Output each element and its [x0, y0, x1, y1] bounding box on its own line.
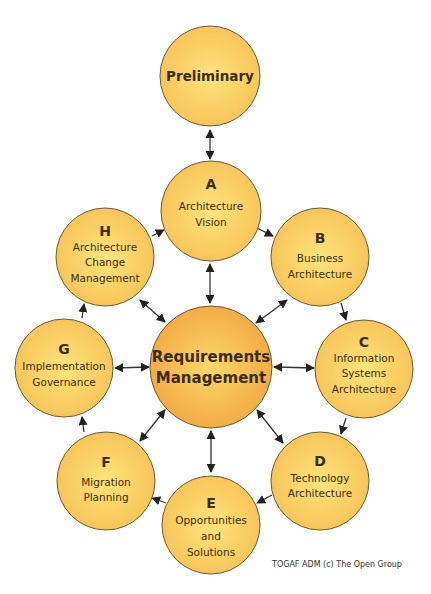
arrow-center-h — [140, 300, 165, 322]
phase-letter: G — [58, 341, 70, 357]
phase-name-line: Information — [334, 352, 395, 364]
arrow-center-b — [256, 300, 287, 323]
phase-name-line: Planning — [83, 491, 128, 503]
phase-letter: B — [315, 230, 326, 246]
preliminary-label: Preliminary — [166, 68, 254, 84]
phase-name-line: Change — [85, 256, 125, 268]
arrow-f-g — [82, 417, 84, 432]
phase-name-line: Architecture — [332, 383, 396, 395]
phase-name-line: Business — [297, 252, 343, 264]
arrow-center-g — [115, 367, 149, 368]
arrow-a-b — [257, 228, 273, 236]
phase-name-line: Governance — [32, 376, 95, 388]
node-preliminary: Preliminary — [160, 26, 260, 126]
phase-name-line: Vision — [195, 216, 226, 228]
phase-name-line: Architecture — [288, 487, 352, 499]
node-phase-e: E Opportunities and Solutions — [162, 476, 260, 574]
phase-letter: D — [314, 453, 326, 469]
arrow-c-d — [341, 418, 346, 434]
arrow-center-f — [140, 410, 165, 441]
phase-letter: C — [359, 334, 369, 350]
node-phase-h: H Architecture Change Management — [56, 208, 154, 306]
node-requirements-management: Requirements Management — [150, 306, 272, 428]
phase-name-line: Solutions — [187, 546, 235, 558]
phase-name-line: Architecture — [73, 241, 137, 253]
phase-name-line: Systems — [342, 367, 387, 379]
phase-letter: A — [206, 176, 217, 192]
node-phase-f: F Migration Planning — [57, 432, 155, 530]
phase-letter: F — [101, 454, 111, 470]
togaf-adm-diagram: Preliminary A Architecture Vision B Busi… — [0, 0, 431, 594]
arrow-h-a — [152, 230, 164, 236]
phase-name-line: Architecture — [288, 268, 352, 280]
phase-name-line: Implementation — [22, 360, 105, 372]
arrow-d-e — [257, 495, 272, 503]
phase-letter: E — [206, 495, 216, 511]
phase-name-line: and — [201, 530, 221, 542]
phase-name-line: Architecture — [179, 200, 243, 212]
arrow-center-c — [274, 367, 314, 368]
node-phase-c: C Information Systems Architecture — [315, 320, 413, 418]
phase-name-line: Opportunities — [175, 514, 247, 526]
phase-name-line: Management — [70, 272, 139, 284]
phase-letter: H — [99, 223, 111, 239]
node-phase-g: G Implementation Governance — [15, 319, 113, 417]
center-label-line1: Requirements — [152, 348, 271, 366]
arrow-center-d — [257, 410, 283, 443]
arrow-b-c — [341, 303, 346, 320]
arrow-e-f — [152, 498, 166, 503]
phase-name-line: Migration — [81, 476, 131, 488]
phase-name-line: Technology — [290, 472, 350, 484]
node-phase-b: B Business Architecture — [271, 208, 369, 306]
copyright-credit: TOGAF ADM (c) The Open Group — [272, 560, 402, 569]
center-label-line2: Management — [156, 369, 266, 387]
node-phase-a: A Architecture Vision — [161, 161, 261, 261]
arrow-g-h — [82, 304, 84, 318]
node-phase-d: D Technology Architecture — [271, 432, 369, 530]
